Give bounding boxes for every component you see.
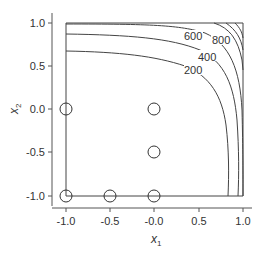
y-tick-labels: 1.0 0.5 0.0 -0.5 -1.0 — [26, 17, 45, 202]
contour-600 — [66, 24, 243, 196]
x-axis-title: x1 — [150, 232, 162, 248]
y-tick-label: 0.5 — [30, 60, 45, 72]
design-point — [148, 103, 160, 115]
design-point — [148, 146, 160, 158]
contour-label-200: 200 — [184, 64, 202, 76]
x-tick-label: -0.5 — [101, 215, 120, 227]
y-tick-label: 1.0 — [30, 17, 45, 29]
x-tick-label: -0.0 — [145, 215, 164, 227]
contour-label-400: 400 — [198, 51, 216, 63]
x-tick-labels: -1.0 -0.5 -0.0 0.5 1.0 — [57, 215, 251, 227]
contour-1200 — [235, 23, 243, 38]
y-tick-label: 0.0 — [30, 103, 45, 115]
contour-label-600: 600 — [184, 30, 202, 42]
contour-800 — [214, 23, 243, 70]
contour-chart: 1.0 0.5 0.0 -0.5 -1.0 -1.0 -0.5 -0.0 0.5… — [0, 0, 266, 253]
y-tick-label: -0.5 — [26, 146, 45, 158]
contour-lines — [66, 23, 243, 196]
x-tick-label: -1.0 — [57, 215, 76, 227]
x-tick-label: 1.0 — [235, 215, 250, 227]
contour-labels: 600 800 400 200 — [183, 30, 231, 76]
y-axis — [48, 13, 52, 206]
y-tick-label: -1.0 — [26, 190, 45, 202]
region-boundary — [66, 23, 243, 196]
contour-label-800: 800 — [212, 34, 230, 46]
x-axis — [52, 208, 252, 212]
contour-200 — [66, 51, 229, 196]
x-tick-label: 0.5 — [191, 215, 206, 227]
design-points — [60, 103, 160, 202]
y-axis-title: x2 — [7, 103, 23, 115]
